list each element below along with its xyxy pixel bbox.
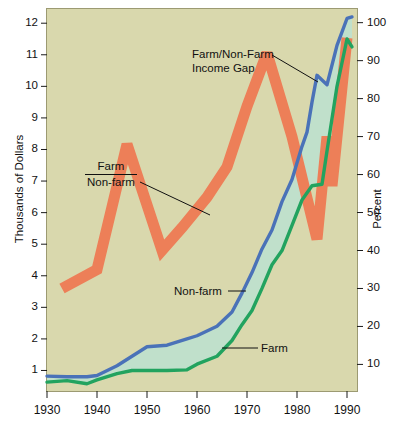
y-tick-left-11: 11 [6, 49, 38, 61]
y-tick-left-10: 10 [6, 80, 38, 92]
x-tick-1940: 1940 [75, 404, 119, 416]
annotation-income-gap-line2: Income Gap [192, 62, 255, 74]
y-tick-left-4: 4 [6, 270, 38, 282]
y-axis-right-title: Percent [371, 179, 383, 239]
chart-figure: 123456789101112 102030405060708090100 19… [0, 0, 406, 425]
y-tick-left-2: 2 [6, 333, 38, 345]
y-axis-left-title: Thousands of Dollars [13, 134, 25, 244]
annotation-nonfarm: Non-farm [174, 285, 222, 299]
y-tick-right-30: 30 [367, 282, 395, 294]
annotation-income-gap-line1: Farm/Non-Farm [192, 48, 274, 60]
x-tick-1960: 1960 [175, 404, 219, 416]
annotation-ratio-numerator: Farm [85, 160, 137, 173]
y-tick-right-10: 10 [367, 358, 395, 370]
y-tick-right-40: 40 [367, 245, 395, 257]
annotation-ratio-denominator: Non-farm [85, 176, 137, 189]
y-tick-right-80: 80 [367, 93, 395, 105]
x-tick-1970: 1970 [225, 404, 269, 416]
y-tick-right-70: 70 [367, 131, 395, 143]
x-tick-1950: 1950 [125, 404, 169, 416]
annotation-ratio-fraction: Farm Non-farm [85, 160, 137, 189]
y-tick-left-3: 3 [6, 301, 38, 313]
y-tick-left-12: 12 [6, 17, 38, 29]
x-tick-1980: 1980 [275, 404, 319, 416]
x-tick-1990: 1990 [325, 404, 369, 416]
y-tick-right-100: 100 [367, 17, 395, 29]
y-tick-left-1: 1 [6, 364, 38, 376]
y-tick-right-20: 20 [367, 320, 395, 332]
fraction-bar [85, 174, 137, 175]
y-tick-right-90: 90 [367, 55, 395, 67]
x-tick-1930: 1930 [25, 404, 69, 416]
annotation-income-gap: Farm/Non-Farm Income Gap [192, 48, 274, 75]
annotation-farm: Farm [261, 342, 288, 356]
y-tick-left-9: 9 [6, 112, 38, 124]
